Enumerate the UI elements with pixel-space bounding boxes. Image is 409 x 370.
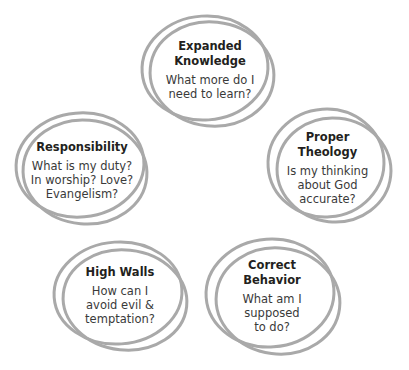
node-question: Is my thinking about God accurate? <box>287 164 368 206</box>
title-line: Theology <box>298 145 357 160</box>
node-title: Expanded Knowledge <box>174 39 246 69</box>
node-title: Correct Behavior <box>243 258 301 288</box>
question-line: about God <box>287 178 368 192</box>
node-question: What more do I need to learn? <box>166 73 255 101</box>
node-expanded-knowledge: Expanded Knowledge What more do I need t… <box>140 20 280 120</box>
question-line: What am I <box>242 292 301 306</box>
question-line: In worship? Love? <box>31 173 133 187</box>
node-question: What am I supposed to do? <box>242 292 301 334</box>
question-line: Evangelism? <box>31 187 133 201</box>
node-title: High Walls <box>86 265 155 280</box>
question-line: to do? <box>242 320 301 334</box>
node-proper-theology: Proper Theology Is my thinking about God… <box>265 115 390 220</box>
question-line: temptation? <box>85 312 155 326</box>
question-line: avoid evil & <box>85 298 155 312</box>
node-high-walls: High Walls How can I avoid evil & tempta… <box>55 248 185 343</box>
title-line: Proper <box>298 130 357 145</box>
title-line: Correct <box>243 258 301 273</box>
title-line: Knowledge <box>174 54 246 69</box>
node-title: Responsibility <box>36 140 128 155</box>
title-line: High Walls <box>86 265 155 280</box>
node-responsibility: Responsibility What is my duty? In worsh… <box>12 120 152 220</box>
node-correct-behavior: Correct Behavior What am I supposed to d… <box>207 243 337 348</box>
question-line: Is my thinking <box>287 164 368 178</box>
question-line: need to learn? <box>166 87 255 101</box>
question-line: supposed <box>242 306 301 320</box>
node-question: What is my duty? In worship? Love? Evang… <box>31 159 133 201</box>
question-line: What more do I <box>166 73 255 87</box>
title-line: Behavior <box>243 273 301 288</box>
question-line: What is my duty? <box>31 159 133 173</box>
title-line: Responsibility <box>36 140 128 155</box>
title-line: Expanded <box>174 39 246 54</box>
question-line: accurate? <box>287 192 368 206</box>
node-question: How can I avoid evil & temptation? <box>85 284 155 326</box>
question-line: How can I <box>85 284 155 298</box>
node-title: Proper Theology <box>298 130 357 160</box>
